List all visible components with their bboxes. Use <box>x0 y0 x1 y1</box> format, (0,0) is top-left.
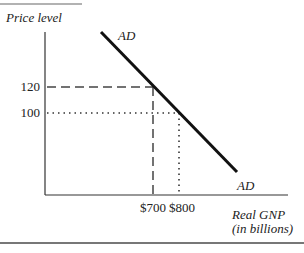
x-tick-800: $800 <box>169 200 195 215</box>
ad-curve <box>101 32 237 172</box>
ad-label-bottom: AD <box>236 178 255 193</box>
x-axis-label-line1: Real GNP <box>231 207 285 222</box>
ad-chart: Price level AD AD 120 100 $700 $800 Real… <box>0 0 304 253</box>
x-axis-label-line2: (in billions) <box>232 221 293 236</box>
y-axis-label: Price level <box>5 10 62 25</box>
x-tick-700: $700 <box>140 200 166 215</box>
ad-label-top: AD <box>117 28 136 43</box>
y-tick-100: 100 <box>21 105 41 120</box>
y-tick-120: 120 <box>21 79 41 94</box>
